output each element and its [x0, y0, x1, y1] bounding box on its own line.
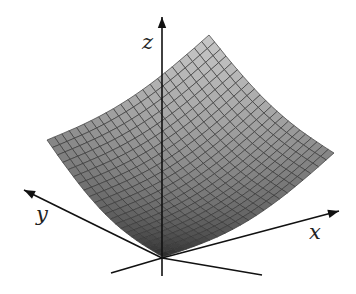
neg-y-axis-line	[162, 258, 262, 275]
z-axis-label: z	[142, 32, 153, 53]
surface-plot-canvas	[0, 0, 356, 294]
surface-plot-figure: z y x	[0, 0, 356, 294]
x-axis-arrowhead-icon	[327, 210, 339, 218]
y-axis-label: y	[36, 204, 48, 225]
neg-x-axis-line	[111, 258, 162, 273]
z-axis-arrowhead-icon	[158, 17, 166, 28]
y-axis-arrowhead-icon	[24, 190, 36, 199]
axes-behind	[111, 258, 262, 276]
x-axis-label: x	[309, 222, 321, 243]
